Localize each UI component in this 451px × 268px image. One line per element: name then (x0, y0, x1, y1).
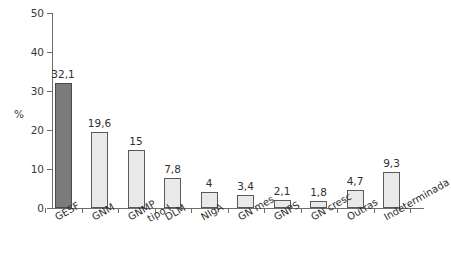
y-tick (47, 13, 52, 14)
bar (128, 150, 145, 209)
y-tick (47, 91, 52, 92)
x-tick (45, 208, 46, 213)
y-tick-label: 50 (14, 8, 44, 18)
bar-value-label: 3,4 (226, 181, 266, 192)
bar-value-label: 9,3 (372, 158, 412, 169)
bar-chart: % 01020304050 32,119,6157,843,42,11,84,7… (0, 0, 451, 268)
x-tick (118, 208, 119, 213)
x-tick (228, 208, 229, 213)
bar-value-label: 19,6 (80, 118, 120, 129)
bar-value-label: 32,1 (43, 69, 83, 80)
y-tick-label: 20 (14, 125, 44, 135)
y-axis-line (52, 13, 53, 209)
bar-value-label: 4 (189, 178, 229, 189)
y-tick-label: 40 (14, 47, 44, 57)
y-tick (47, 208, 52, 209)
bar (55, 83, 72, 208)
y-tick (47, 169, 52, 170)
bar (91, 132, 108, 208)
bar-value-label: 7,8 (153, 164, 193, 175)
bar-value-label: 1,8 (299, 187, 339, 198)
y-axis-title: % (14, 108, 24, 120)
y-tick (47, 52, 52, 53)
bar-value-label: 15 (116, 136, 156, 147)
y-tick (47, 130, 52, 131)
y-tick-label: 30 (14, 86, 44, 96)
bar-value-label: 4,7 (335, 176, 375, 187)
y-tick-label: 10 (14, 164, 44, 174)
plot-area: 01020304050 32,119,6157,843,42,11,84,79,… (52, 13, 432, 208)
y-tick-label: 0 (14, 203, 44, 213)
x-tick (191, 208, 192, 213)
x-tick (82, 208, 83, 213)
